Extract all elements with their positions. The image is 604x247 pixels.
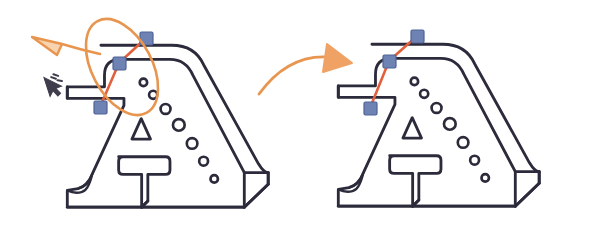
handle-middle-right-figure[interactable] [383, 55, 396, 68]
drawing-canvas: CAD edit handle comparison [0, 0, 604, 247]
cursor-motion-line-1 [51, 76, 56, 80]
transition-arrow-head [323, 44, 352, 72]
handle-middle-left-figure[interactable] [113, 57, 126, 70]
transition-arrow-shaft [259, 57, 329, 94]
profile-outline-right [338, 44, 539, 206]
figure-svg [0, 0, 604, 247]
leader-arrow-head [32, 37, 62, 55]
cursor-motion-line-3 [57, 79, 61, 82]
cursor-motion-line-2 [53, 73, 58, 77]
cursor-arrow-glyph [44, 73, 64, 98]
leader-arrow-shaft [62, 44, 100, 54]
profile-outline-left [67, 45, 268, 207]
leader-arrow-left [32, 37, 100, 55]
left-figure-before[interactable] [67, 32, 268, 207]
handle-lower-right-figure[interactable] [364, 102, 377, 115]
right-figure-after[interactable] [338, 30, 539, 206]
mouse-cursor-icon [44, 72, 66, 98]
handle-lower-left-figure[interactable] [94, 101, 107, 114]
handle-top-right-figure[interactable] [411, 30, 424, 43]
